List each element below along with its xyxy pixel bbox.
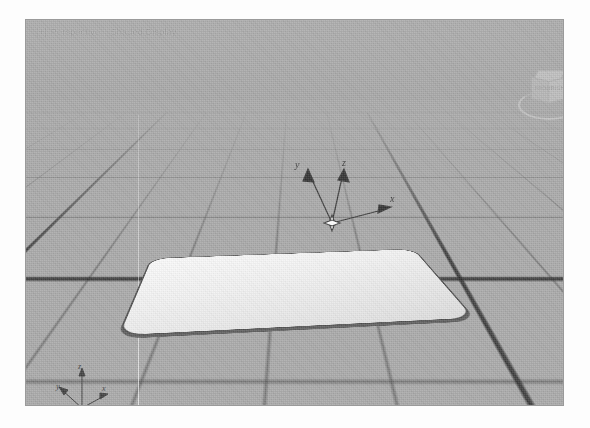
perspective-viewport[interactable]: y z x z y x bbox=[26, 20, 563, 405]
gizmo-label-y: y bbox=[295, 159, 299, 170]
view-cube-label-right: RIGHT bbox=[551, 85, 563, 91]
axis-gizmo: y z x bbox=[294, 155, 404, 235]
world-label-x: x bbox=[102, 384, 106, 393]
rounded-slab-object[interactable] bbox=[117, 249, 475, 336]
viewport-title-mode[interactable]: Shaded Display bbox=[111, 27, 177, 37]
viewport-title[interactable]: [+] Perspective | Shaded Display bbox=[36, 24, 176, 39]
view-cube-body[interactable]: FRONT RIGHT bbox=[531, 70, 563, 100]
viewport-title-separator: | bbox=[104, 27, 107, 37]
world-label-z: z bbox=[78, 362, 81, 371]
origin-star-icon bbox=[324, 215, 340, 231]
x-axis-arrow bbox=[378, 205, 391, 213]
viewport-title-name[interactable]: Perspective bbox=[51, 27, 100, 37]
gizmo-label-x: x bbox=[390, 193, 394, 204]
world-axis-indicator: z y x bbox=[56, 364, 112, 405]
world-label-y: y bbox=[56, 382, 60, 391]
y-axis-arrow bbox=[303, 169, 314, 182]
view-cube[interactable]: FRONT RIGHT bbox=[515, 64, 563, 120]
screenshot-page: y z x z y x bbox=[0, 0, 590, 428]
gizmo-label-z: z bbox=[342, 157, 346, 168]
viewport-title-prefix[interactable]: [+] bbox=[36, 27, 47, 37]
z-axis-arrow bbox=[338, 169, 349, 182]
world-x-arrow bbox=[100, 393, 108, 399]
world-y-axis-line bbox=[138, 115, 139, 405]
